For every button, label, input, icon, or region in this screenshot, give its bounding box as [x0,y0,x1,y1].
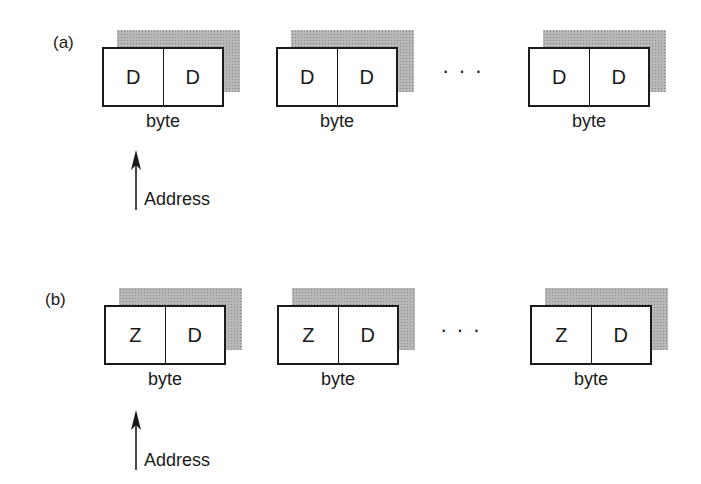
nibble-right: D [163,49,223,105]
byte-cell-a-2: D D byte [276,47,398,107]
ellipsis: ··· [440,317,489,343]
byte-box: Z D [277,305,399,365]
nibble-left: D [530,49,589,105]
nibble-right: D [338,307,398,363]
ellipsis: ··· [442,58,491,84]
panel-tag-a: (a) [53,33,74,53]
byte-box: Z D [530,305,652,365]
nibble-right: D [165,307,225,363]
nibble-right: D [591,307,651,363]
byte-label: byte [104,369,226,390]
byte-label: byte [528,111,650,132]
byte-label: byte [530,369,652,390]
panel-tag-b: (b) [45,290,66,310]
nibble-left: Z [279,307,338,363]
byte-cell-a-3: D D byte [528,47,650,107]
byte-box: D D [276,47,398,107]
byte-label: byte [102,111,224,132]
byte-cell-b-3: Z D byte [530,305,652,365]
nibble-right: D [589,49,649,105]
address-label: Address [144,189,210,210]
address-label: Address [144,450,210,471]
byte-label: byte [276,111,398,132]
nibble-left: D [278,49,337,105]
byte-cell-a-1: D D byte [102,47,224,107]
byte-box: D D [102,47,224,107]
byte-box: Z D [104,305,226,365]
byte-cell-b-1: Z D byte [104,305,226,365]
byte-label: byte [277,369,399,390]
nibble-left: Z [532,307,591,363]
byte-cell-b-2: Z D byte [277,305,399,365]
nibble-right: D [337,49,397,105]
nibble-left: Z [106,307,165,363]
byte-box: D D [528,47,650,107]
nibble-left: D [104,49,163,105]
